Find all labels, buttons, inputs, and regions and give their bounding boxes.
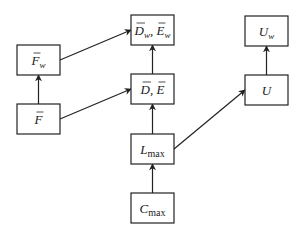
node-dwew: Dw, Ew — [131, 15, 174, 45]
node-uw: Uw — [245, 16, 288, 46]
node-label: D, E — [140, 82, 165, 97]
node-label: F — [34, 112, 44, 127]
node-de: D, E — [131, 74, 174, 104]
dependency-diagram: FwFDw, EwD, EUwULmaxCmax — [0, 0, 302, 230]
edge-fw-to-dwew — [60, 30, 131, 60]
edge-lmax-to-u — [174, 90, 245, 149]
node-lmax: Lmax — [131, 134, 174, 164]
node-u: U — [245, 75, 288, 105]
node-f: F — [17, 104, 60, 134]
node-cmax: Cmax — [131, 193, 174, 223]
edge-f-to-de — [60, 89, 131, 119]
node-label: U — [262, 83, 273, 98]
node-fw: Fw — [17, 45, 60, 75]
